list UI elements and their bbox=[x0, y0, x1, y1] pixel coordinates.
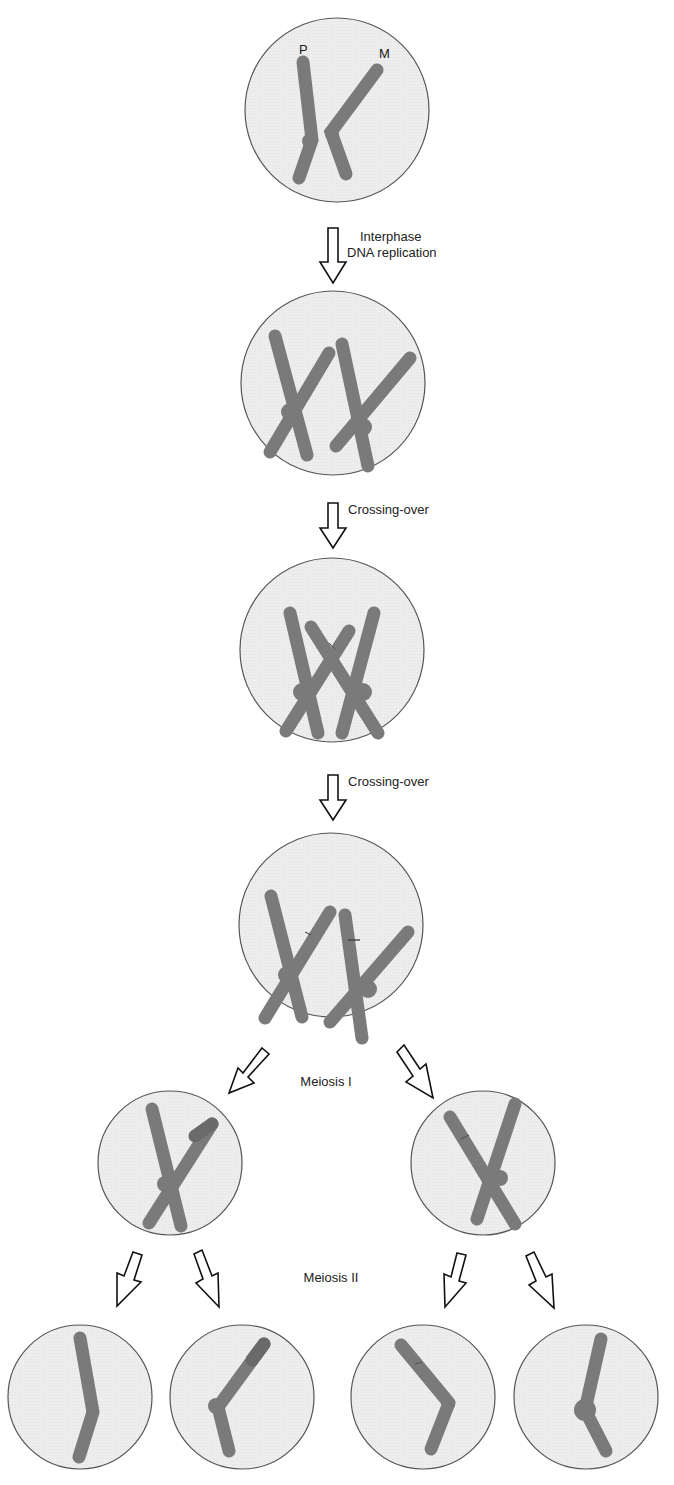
meiosis-2-label: Meiosis II bbox=[304, 1270, 359, 1286]
cell-membrane bbox=[245, 18, 429, 202]
meiosis-diagram: P M Interphase DNA replication Crossing-… bbox=[0, 0, 674, 1485]
centromere bbox=[492, 1170, 508, 1186]
meiosis-1-label: Meiosis I bbox=[300, 1074, 351, 1090]
arrow-meiosis2-2 bbox=[194, 1250, 219, 1307]
centromere bbox=[359, 980, 377, 998]
centromere bbox=[574, 1399, 596, 1421]
centromere bbox=[302, 134, 316, 148]
arrow-crossing-over-1 bbox=[320, 503, 346, 548]
centromere bbox=[278, 966, 296, 984]
centromere bbox=[157, 1176, 173, 1192]
cell-replicated bbox=[241, 291, 425, 475]
centromere bbox=[441, 1397, 455, 1411]
cell-parent bbox=[245, 18, 429, 202]
centromere bbox=[86, 1404, 98, 1416]
arrow-meiosis2-1 bbox=[117, 1252, 142, 1306]
maternal-label: M bbox=[379, 46, 390, 61]
cell-gamete-2 bbox=[170, 1325, 314, 1469]
cell-gamete-1 bbox=[8, 1325, 152, 1469]
arrow-meiosis1-left bbox=[229, 1048, 269, 1093]
arrow-crossing-over-2 bbox=[320, 775, 346, 820]
cell-synapsis bbox=[240, 558, 424, 742]
centromere bbox=[208, 1398, 224, 1414]
arrow-meiosis2-3 bbox=[444, 1253, 466, 1307]
down-arrow-icon bbox=[320, 775, 346, 820]
cell-membrane bbox=[170, 1325, 314, 1469]
arrow-meiosis1-right bbox=[397, 1045, 433, 1098]
cell-recombined bbox=[239, 833, 423, 1038]
paternal-label: P bbox=[299, 42, 308, 57]
cell-gamete-3 bbox=[351, 1325, 495, 1469]
diagonal-arrow-icon bbox=[229, 1048, 269, 1093]
centromere bbox=[293, 683, 311, 701]
centromere bbox=[281, 403, 299, 421]
crossing-over-label-1: Crossing-over bbox=[348, 502, 429, 518]
cell-meiosis1-right bbox=[411, 1091, 555, 1235]
crossing-over-label-2: Crossing-over bbox=[348, 774, 429, 790]
cell-gamete-4 bbox=[514, 1325, 658, 1469]
diagonal-arrow-icon bbox=[194, 1250, 219, 1307]
arrow-meiosis2-4 bbox=[526, 1252, 554, 1308]
cell-meiosis1-left bbox=[98, 1091, 242, 1235]
interphase-label: Interphase bbox=[360, 229, 421, 245]
centromere bbox=[354, 683, 372, 701]
arrow-interphase bbox=[320, 228, 346, 283]
diagram-canvas bbox=[0, 0, 674, 1485]
diagonal-arrow-icon bbox=[117, 1252, 142, 1306]
cell-membrane bbox=[239, 833, 423, 1017]
cell-membrane bbox=[351, 1325, 495, 1469]
centromere bbox=[325, 127, 339, 141]
down-arrow-icon bbox=[320, 503, 346, 548]
dna-replication-label: DNA replication bbox=[347, 245, 437, 261]
diagonal-arrow-icon bbox=[444, 1253, 466, 1307]
centromere bbox=[354, 418, 372, 436]
down-arrow-icon bbox=[320, 228, 346, 283]
diagonal-arrow-icon bbox=[526, 1252, 554, 1308]
diagonal-arrow-icon bbox=[397, 1045, 433, 1098]
